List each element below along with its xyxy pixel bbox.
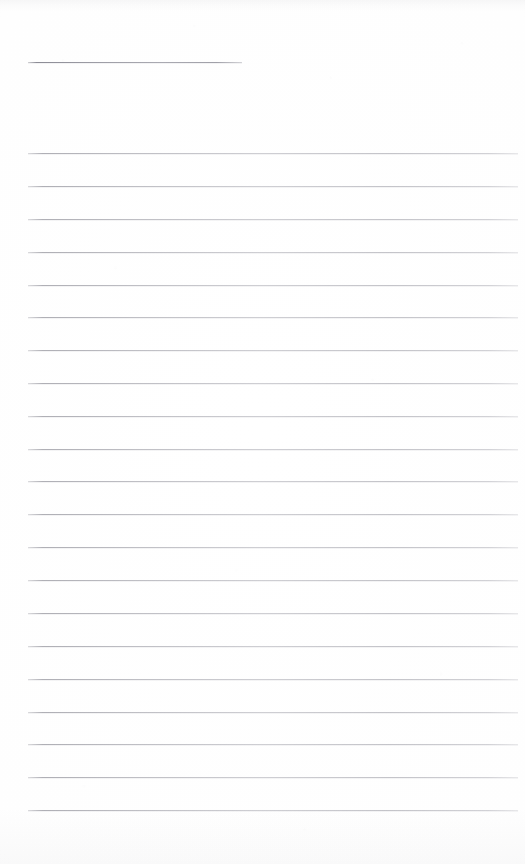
rule-20	[28, 777, 518, 778]
rule-17	[28, 679, 518, 680]
rule-3	[28, 219, 518, 220]
rule-4	[28, 252, 518, 253]
rule-16	[28, 646, 518, 647]
scanned-page	[0, 0, 525, 864]
short-rule-1	[28, 62, 242, 63]
rule-18	[28, 712, 518, 713]
rule-11	[28, 481, 518, 482]
rule-12	[28, 514, 518, 515]
ruled-lines-layer	[0, 0, 525, 864]
rule-9	[28, 416, 518, 417]
rule-19	[28, 744, 518, 745]
rule-14	[28, 580, 518, 581]
rule-10	[28, 449, 518, 450]
rule-7	[28, 350, 518, 351]
rule-13	[28, 547, 518, 548]
rule-21	[28, 810, 518, 811]
rule-2	[28, 186, 518, 187]
rule-1	[28, 153, 518, 154]
rule-5	[28, 285, 518, 286]
rule-15	[28, 613, 518, 614]
rule-6	[28, 317, 518, 318]
rule-8	[28, 383, 518, 384]
